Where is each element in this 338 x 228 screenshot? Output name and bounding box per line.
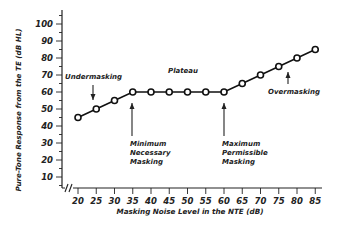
y-tick-label: 80 [41, 53, 53, 63]
data-point-marker [185, 89, 191, 95]
series-line [78, 50, 315, 118]
y-axis: 102030405060708090100 [35, 10, 62, 188]
minimum-necessary-masking-label: Masking [130, 158, 163, 166]
data-point-marker [130, 89, 136, 95]
y-tick-label: 10 [41, 172, 53, 182]
y-tick-label: 90 [41, 36, 53, 46]
x-tick-label: 85 [309, 196, 321, 206]
x-axis: 2025303540455055606570758085 [62, 184, 322, 206]
data-point-marker [239, 81, 245, 87]
undermasking-label: Undermasking [65, 73, 122, 81]
x-tick-label: 65 [236, 196, 248, 206]
x-tick-label: 20 [72, 196, 84, 206]
x-tick-label: 50 [182, 196, 194, 206]
x-tick-label: 40 [144, 196, 157, 206]
x-tick-label: 25 [90, 196, 102, 206]
y-tick-label: 100 [35, 19, 53, 29]
y-tick-label: 70 [41, 70, 53, 80]
y-tick-label: 60 [41, 87, 53, 97]
x-tick-label: 45 [162, 196, 175, 206]
plateau-label: Plateau [168, 67, 198, 75]
arrow-down-icon [91, 85, 96, 100]
chart: 102030405060708090100 202530354045505560… [0, 0, 338, 228]
maximum-permissible-masking-label: Maximum [222, 140, 260, 148]
y-axis-title: Pure-Tone Response from the TE (dB HL) [14, 28, 23, 191]
y-tick-label: 20 [41, 155, 53, 165]
maximum-permissible-masking-label: Permissible [222, 149, 268, 157]
data-point-marker [312, 47, 318, 53]
annotations: UndermaskingPlateauMinimumNecessaryMaski… [65, 67, 320, 166]
data-point-marker [221, 89, 227, 95]
arrow-up-icon [130, 103, 135, 136]
x-tick-label: 80 [291, 196, 303, 206]
y-tick-label: 30 [41, 138, 53, 148]
x-tick-label: 75 [273, 196, 285, 206]
y-tick-label: 40 [40, 121, 53, 131]
data-point-marker [294, 55, 300, 61]
x-tick-label: 60 [218, 196, 230, 206]
data-point-marker [276, 64, 282, 70]
y-tick-label: 50 [41, 104, 53, 114]
x-tick-label: 55 [200, 196, 212, 206]
data-point-marker [93, 106, 99, 112]
minimum-necessary-masking-label: Necessary [130, 149, 171, 157]
x-axis-title: Masking Noise Level in the NTE (dB) [117, 207, 264, 216]
maximum-permissible-masking-label: Masking [222, 158, 255, 166]
data-point-marker [258, 72, 264, 78]
data-point-marker [203, 89, 209, 95]
x-tick-label: 35 [127, 196, 139, 206]
overmasking-label: Overmasking [268, 88, 320, 96]
arrow-up-icon [286, 72, 291, 84]
arrow-up-icon [222, 103, 227, 136]
data-point-marker [112, 98, 118, 104]
x-tick-label: 70 [255, 196, 267, 206]
data-point-marker [166, 89, 172, 95]
data-point-marker [75, 115, 81, 121]
data-series [75, 47, 318, 121]
x-tick-label: 30 [109, 196, 121, 206]
minimum-necessary-masking-label: Minimum [130, 140, 166, 148]
data-point-marker [148, 89, 154, 95]
axis-break-icon [65, 184, 73, 192]
